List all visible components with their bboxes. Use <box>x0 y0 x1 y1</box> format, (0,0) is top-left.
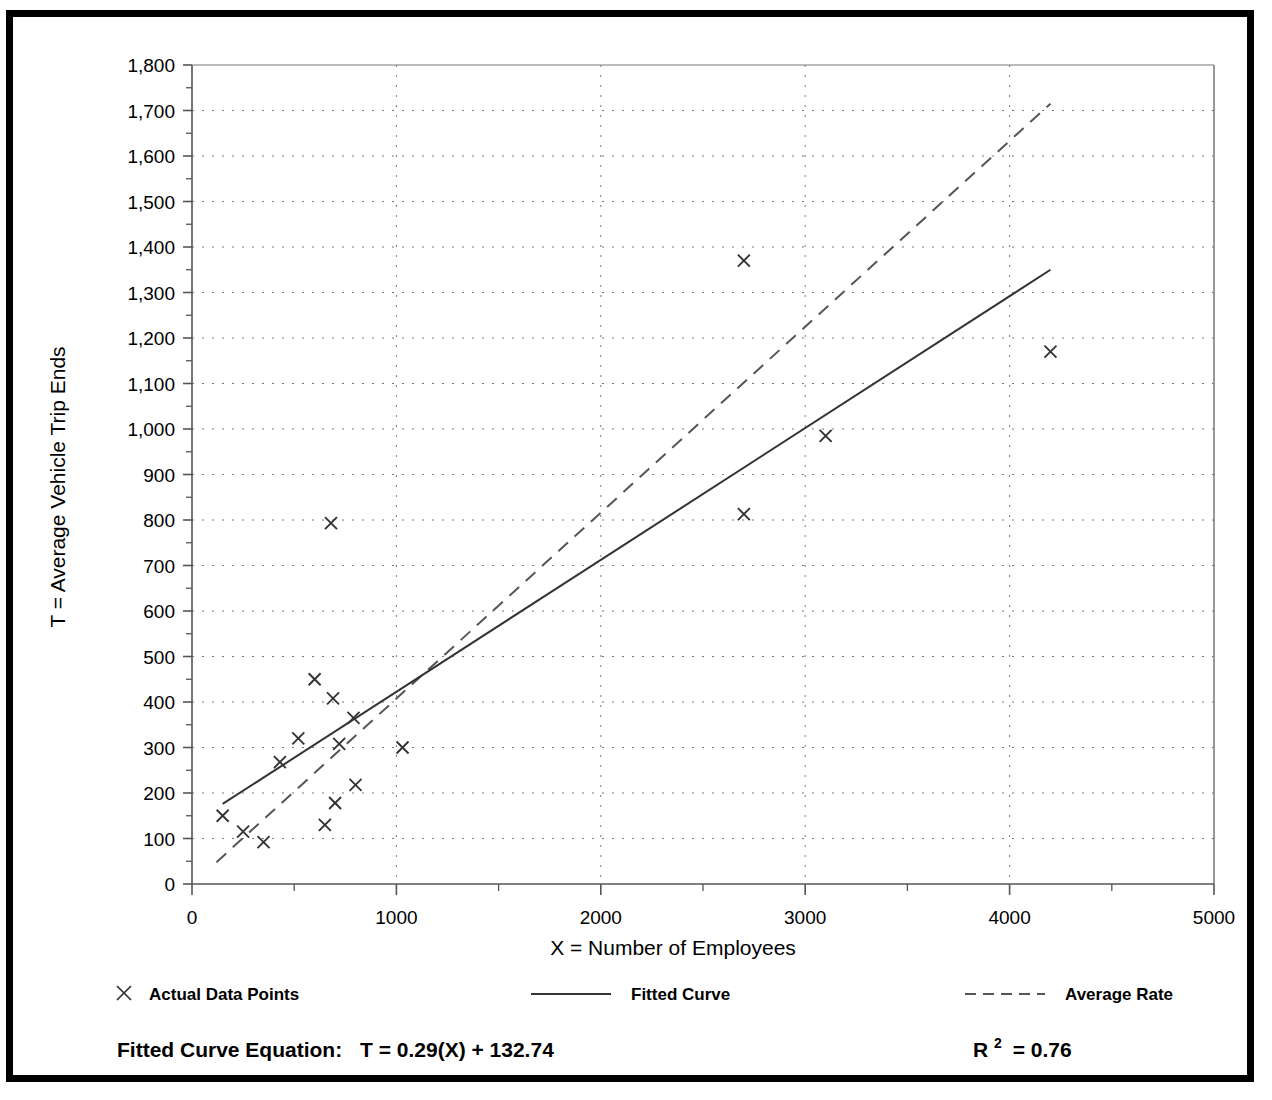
y-tick-label: 1,600 <box>127 146 175 167</box>
legend-item-average-rate: Average Rate <box>965 985 1173 1004</box>
scatter-chart: 01002003004005006007008009001,0001,1001,… <box>13 17 1247 1075</box>
data-point-marker <box>738 508 750 520</box>
r-squared-base: R <box>973 1038 988 1061</box>
r-squared-exponent: 2 <box>994 1035 1002 1051</box>
data-point-marker <box>350 779 362 791</box>
equation-text: Fitted Curve Equation: T = 0.29(X) + 132… <box>117 1038 554 1061</box>
data-point-marker <box>325 517 337 529</box>
legend-label-fitted-curve: Fitted Curve <box>631 985 730 1004</box>
fitted-curve-line <box>223 270 1051 804</box>
data-point-marker <box>327 692 339 704</box>
y-tick-label: 200 <box>143 783 175 804</box>
data-point-marker <box>333 738 345 750</box>
y-tick-label: 1,400 <box>127 237 175 258</box>
chart-frame: 01002003004005006007008009001,0001,1001,… <box>6 10 1254 1082</box>
legend-label-average-rate: Average Rate <box>1065 985 1173 1004</box>
y-tick-label: 300 <box>143 738 175 759</box>
x-tick-label: 2000 <box>580 907 622 928</box>
y-tick-label: 100 <box>143 829 175 850</box>
chart-legend: Actual Data Points Fitted Curve Average … <box>117 985 1173 1004</box>
y-tick-label: 1,300 <box>127 283 175 304</box>
y-tick-label: 1,000 <box>127 419 175 440</box>
r-squared-text: R 2 = 0.76 <box>973 1029 1072 1061</box>
gridlines <box>192 65 1214 884</box>
legend-item-actual-data-points: Actual Data Points <box>117 985 299 1004</box>
y-tick-label: 1,100 <box>127 374 175 395</box>
data-point-marker <box>397 742 409 754</box>
y-tick-labels: 01002003004005006007008009001,0001,1001,… <box>127 55 175 895</box>
data-point-marker <box>738 255 750 267</box>
data-point-marker <box>292 732 304 744</box>
equation-label: Fitted Curve Equation: <box>117 1038 342 1061</box>
data-point-marker <box>217 810 229 822</box>
y-major-ticks <box>183 65 192 884</box>
data-point-marker <box>258 836 270 848</box>
legend-item-fitted-curve: Fitted Curve <box>531 985 730 1004</box>
y-tick-label: 700 <box>143 556 175 577</box>
r-squared-value: = 0.76 <box>1013 1038 1072 1061</box>
equation-value: T = 0.29(X) + 132.74 <box>360 1038 554 1061</box>
y-tick-label: 600 <box>143 601 175 622</box>
y-tick-label: 800 <box>143 510 175 531</box>
y-tick-label: 900 <box>143 465 175 486</box>
data-point-markers <box>217 255 1057 848</box>
x-tick-label: 5000 <box>1193 907 1235 928</box>
x-tick-label: 1000 <box>375 907 417 928</box>
y-tick-label: 1,200 <box>127 328 175 349</box>
x-tick-label: 0 <box>187 907 198 928</box>
data-point-marker <box>319 819 331 831</box>
data-point-marker <box>309 673 321 685</box>
y-tick-label: 0 <box>164 874 175 895</box>
legend-label-actual-data-points: Actual Data Points <box>149 985 299 1004</box>
x-marker-icon <box>117 986 131 1000</box>
y-tick-label: 1,700 <box>127 101 175 122</box>
x-minor-ticks <box>294 884 1112 891</box>
data-point-marker <box>237 826 249 838</box>
y-axis-title: T = Average Vehicle Trip Ends <box>46 346 69 627</box>
x-tick-label: 4000 <box>988 907 1030 928</box>
x-tick-label: 3000 <box>784 907 826 928</box>
chart-canvas: 01002003004005006007008009001,0001,1001,… <box>13 17 1247 1075</box>
chart-footer: Fitted Curve Equation: T = 0.29(X) + 132… <box>117 1029 1072 1061</box>
y-tick-label: 1,500 <box>127 192 175 213</box>
x-tick-labels: 010002000300040005000 <box>187 907 1235 928</box>
y-tick-label: 1,800 <box>127 55 175 76</box>
y-tick-label: 400 <box>143 692 175 713</box>
average-rate-line <box>217 104 1051 862</box>
data-point-marker <box>1044 346 1056 358</box>
x-axis-title: X = Number of Employees <box>550 936 796 959</box>
data-point-marker <box>329 797 341 809</box>
data-point-marker <box>820 430 832 442</box>
y-tick-label: 500 <box>143 647 175 668</box>
